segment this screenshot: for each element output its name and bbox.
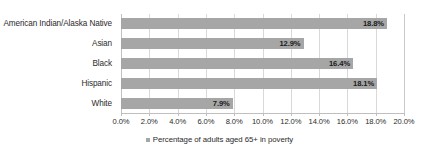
x-axis-tick-label: 14.0%: [309, 117, 330, 126]
x-axis-tick: [291, 113, 292, 116]
x-axis-tick-label: 4.0%: [169, 117, 186, 126]
x-axis-tick: [347, 113, 348, 116]
bar-chart: American Indian/Alaska NativeAsianBlackH…: [0, 0, 439, 158]
category-label: American Indian/Alaska Native: [0, 14, 117, 34]
x-axis-tick: [178, 113, 179, 116]
bar-value-label: 16.4%: [329, 59, 353, 68]
x-axis-tick: [376, 113, 377, 116]
bar-value-label: 7.9%: [213, 99, 233, 108]
x-axis-tick: [149, 113, 150, 116]
bar-row: 18.8%: [121, 14, 404, 34]
x-axis-tick: [263, 113, 264, 116]
category-label: Hispanic: [0, 73, 117, 93]
bar-row: 18.1%: [121, 73, 404, 93]
x-axis-tick-label: 6.0%: [197, 117, 214, 126]
x-axis-tick-labels: 0.0%2.0%4.0%6.0%8.0%10.0%12.0%14.0%16.0%…: [121, 117, 404, 129]
x-axis-tick-label: 8.0%: [226, 117, 243, 126]
bar: 16.4%: [121, 58, 353, 69]
legend-marker-icon: [146, 138, 150, 142]
bar-row: 16.4%: [121, 54, 404, 74]
bar: 18.1%: [121, 78, 377, 89]
bar: 18.8%: [121, 18, 387, 29]
x-axis-tick-label: 18.0%: [365, 117, 386, 126]
legend-label: Percentage of adults aged 65+ in poverty: [153, 135, 293, 144]
category-label: Black: [0, 54, 117, 74]
x-axis-tick: [121, 113, 122, 116]
bar-row: 7.9%: [121, 93, 404, 113]
x-axis-tick-label: 10.0%: [252, 117, 273, 126]
bar-row: 12.9%: [121, 34, 404, 54]
x-axis-tick: [234, 113, 235, 116]
plot-area: 18.8%12.9%16.4%18.1%7.9%: [121, 14, 404, 113]
category-label: White: [0, 93, 117, 113]
x-axis-tick: [404, 113, 405, 116]
category-label: Asian: [0, 34, 117, 54]
x-axis-tick: [206, 113, 207, 116]
x-axis-tick-label: 20.0%: [393, 117, 414, 126]
bar-series: 18.8%12.9%16.4%18.1%7.9%: [121, 14, 404, 113]
x-axis-tick-label: 2.0%: [141, 117, 158, 126]
x-axis-tick-label: 0.0%: [113, 117, 130, 126]
bar: 12.9%: [121, 38, 304, 49]
chart-legend: Percentage of adults aged 65+ in poverty: [0, 135, 439, 144]
bar: 7.9%: [121, 98, 233, 109]
bar-value-label: 18.1%: [353, 79, 377, 88]
gridline: [404, 14, 405, 113]
bar-value-label: 18.8%: [363, 19, 387, 28]
x-axis-tick: [319, 113, 320, 116]
x-axis-tick-label: 16.0%: [337, 117, 358, 126]
bar-value-label: 12.9%: [279, 39, 303, 48]
x-axis-tick-label: 12.0%: [280, 117, 301, 126]
category-axis-labels: American Indian/Alaska NativeAsianBlackH…: [0, 14, 117, 113]
